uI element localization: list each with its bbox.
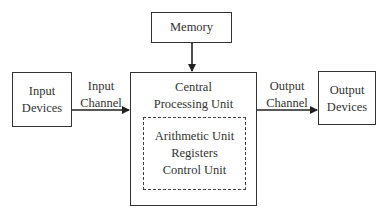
output-devices-box: Output Devices <box>318 71 376 125</box>
input-devices-box: Input Devices <box>12 72 72 127</box>
output-devices-label: Output Devices <box>319 82 375 116</box>
output-channel-label: Output Channel <box>258 78 316 112</box>
input-channel-label: Input Channel <box>74 78 128 112</box>
cpu-box: Central Processing Unit Arithmetic Unit … <box>130 72 257 206</box>
cpu-inner-label: Arithmetic Unit Registers Control Unit <box>144 128 245 179</box>
cpu-inner-box: Arithmetic Unit Registers Control Unit <box>143 117 246 190</box>
memory-box: Memory <box>151 12 232 43</box>
cpu-label: Central Processing Unit <box>131 79 256 113</box>
input-devices-label: Input Devices <box>13 83 71 117</box>
memory-label: Memory <box>152 19 231 36</box>
